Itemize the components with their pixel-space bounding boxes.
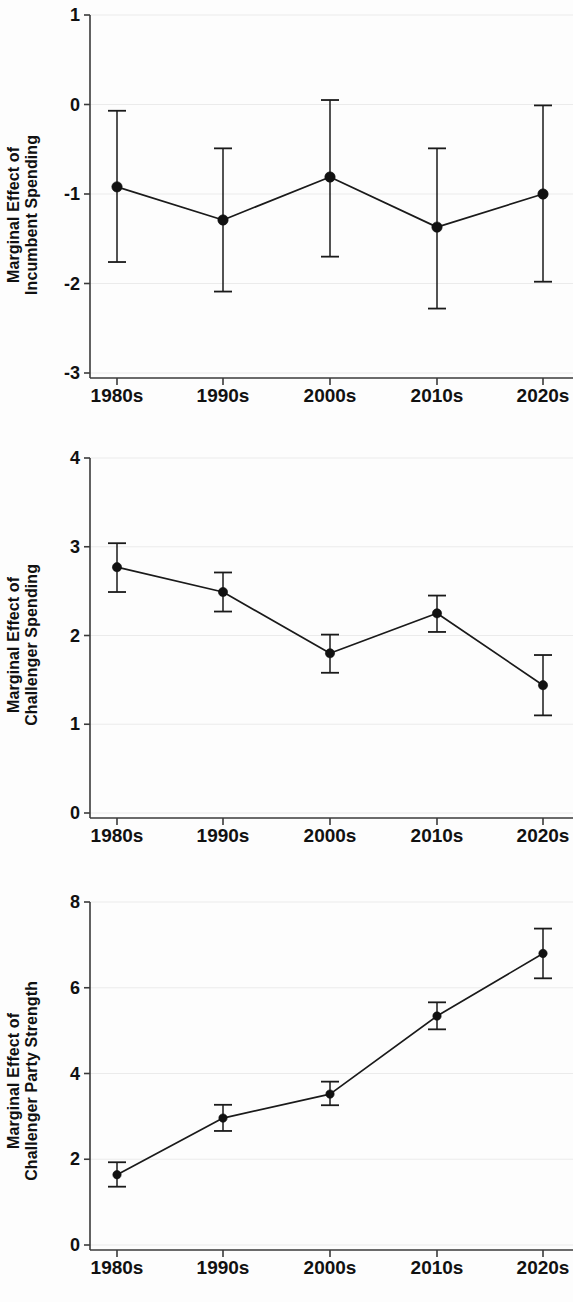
x-tick-label-1990s: 1990s (197, 385, 250, 406)
y-tick-label: 4 (70, 1064, 80, 1084)
x-tick-label-2010s: 2010s (411, 825, 464, 846)
y-tick-label: 0 (70, 95, 80, 115)
data-point-marker (432, 609, 441, 618)
x-tick-label-1980s: 1980s (91, 385, 144, 406)
x-tick-label-2020s: 2020s (517, 1257, 570, 1278)
y-tick-label: 1 (70, 714, 80, 734)
figure-page: Marginal Effect of Incumbent Spending 10… (0, 0, 573, 1302)
data-point-marker (112, 182, 122, 192)
y-tick-label: 2 (70, 626, 80, 646)
y-tick-label: -3 (64, 363, 80, 383)
y-tick-label: 4 (70, 448, 80, 468)
data-point-marker (538, 189, 548, 199)
x-tick-label-2000s: 2000s (304, 825, 357, 846)
data-point-marker (218, 215, 228, 225)
x-tick-label-2010s: 2010s (411, 1257, 464, 1278)
data-point-marker (112, 563, 121, 572)
y-tick-label: 6 (70, 978, 80, 998)
panel-1-plot: 10-1-2-31980s1990s2000s2010s2020s (0, 0, 573, 430)
y-tick-label: 0 (70, 803, 80, 823)
x-tick-label-2020s: 2020s (517, 385, 570, 406)
data-point-marker (326, 1090, 334, 1098)
panel-challenger-party-strength: Marginal Effect of Challenger Party Stre… (0, 860, 573, 1302)
x-tick-label-1980s: 1980s (91, 1257, 144, 1278)
y-tick-label: 2 (70, 1149, 80, 1169)
panel-challenger-spending: Marginal Effect of Challenger Spending 4… (0, 430, 573, 860)
y-tick-label: 0 (70, 1235, 80, 1255)
x-tick-label-1990s: 1990s (197, 1257, 250, 1278)
x-tick-label-2000s: 2000s (304, 385, 357, 406)
x-tick-label-2000s: 2000s (304, 1257, 357, 1278)
x-tick-label-2010s: 2010s (411, 385, 464, 406)
y-tick-label: -2 (64, 274, 80, 294)
y-tick-label: 8 (70, 892, 80, 912)
x-tick-label-1990s: 1990s (197, 825, 250, 846)
panel-incumbent-spending: Marginal Effect of Incumbent Spending 10… (0, 0, 573, 430)
y-tick-label: -1 (64, 184, 80, 204)
y-tick-label: 1 (70, 5, 80, 25)
panel-2-plot: 432101980s1990s2000s2010s2020s (0, 430, 573, 860)
panel-3-plot: 864201980s1990s2000s2010s2020s (0, 860, 573, 1302)
data-point-marker (113, 1170, 121, 1178)
data-point-marker (325, 172, 335, 182)
data-point-marker (325, 649, 334, 658)
data-point-marker (218, 587, 227, 596)
y-tick-label: 3 (70, 537, 80, 557)
data-point-marker (433, 1012, 441, 1020)
data-point-marker (219, 1114, 227, 1122)
data-point-marker (538, 681, 547, 690)
series-line (117, 953, 543, 1174)
data-point-marker (539, 949, 547, 957)
x-tick-label-2020s: 2020s (517, 825, 570, 846)
data-point-marker (432, 222, 442, 232)
x-tick-label-1980s: 1980s (91, 825, 144, 846)
